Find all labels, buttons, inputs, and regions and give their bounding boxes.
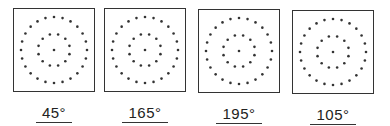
angle-label: 45° bbox=[13, 104, 95, 123]
angle-label: 165° bbox=[104, 104, 186, 123]
dot-pattern-box bbox=[13, 8, 95, 92]
dot-pattern-box bbox=[198, 9, 280, 93]
angle-label: 195° bbox=[198, 105, 280, 124]
angle-label: 105° bbox=[292, 106, 374, 125]
dot-pattern bbox=[14, 9, 94, 91]
dot-pattern bbox=[293, 11, 373, 93]
dot-pattern bbox=[199, 10, 279, 92]
dot-pattern-box bbox=[104, 8, 186, 92]
dot-pattern-box bbox=[292, 10, 374, 94]
dot-pattern bbox=[105, 9, 185, 91]
